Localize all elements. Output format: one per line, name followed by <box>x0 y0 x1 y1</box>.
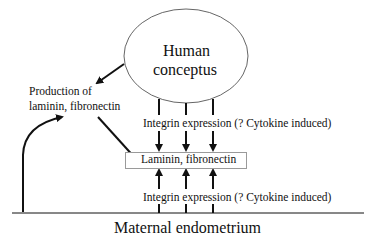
integrin-upper-label: Integrin expression (? Cytokine induced) <box>143 118 331 130</box>
conceptus-label-line1: Human <box>163 43 210 59</box>
conceptus-label-line2: conceptus <box>153 62 217 78</box>
production-label-line2: laminin, fibronectin <box>29 101 120 113</box>
matrix-box-label: Laminin, fibronectin <box>141 154 236 166</box>
endometrium-label: Maternal endometrium <box>114 220 261 236</box>
arrow-conceptus-to-production <box>97 64 124 83</box>
integrin-lower-label: Integrin expression (? Cytokine induced) <box>143 192 331 204</box>
production-label-line1: Production of <box>29 86 92 98</box>
arrow-endometrium-to-production <box>23 117 62 212</box>
